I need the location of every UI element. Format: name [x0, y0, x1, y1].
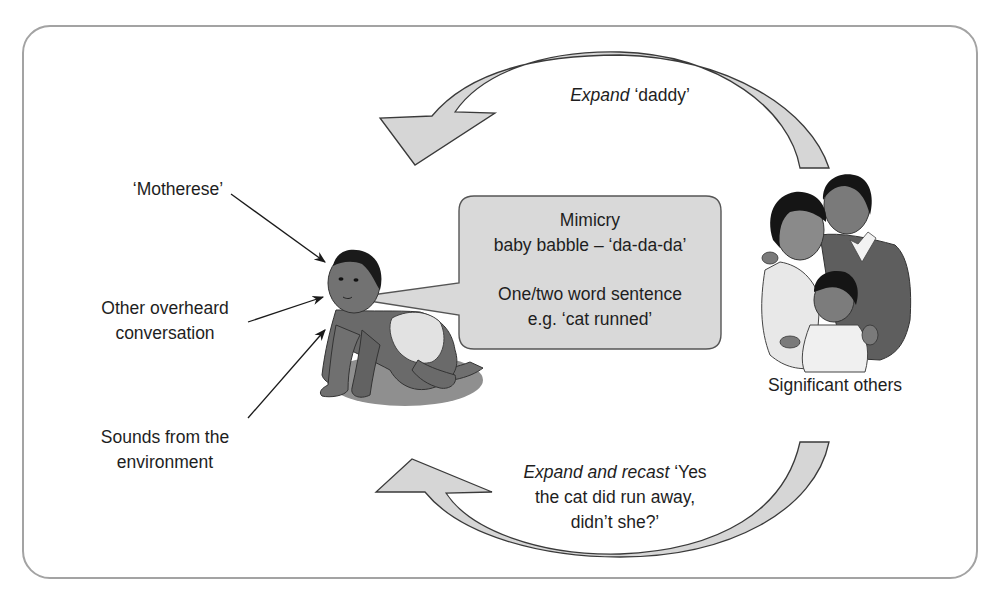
family-group-icon: [762, 174, 911, 372]
overheard-arrow: [248, 297, 323, 322]
bottom-arrow-label: Expand and recast ‘Yes the cat did run a…: [500, 460, 730, 535]
speech-bubble-text: Mimicry baby babble – ‘da-da-da’ One/two…: [459, 208, 721, 332]
environment-arrow: [248, 330, 325, 418]
label-overheard-conversation: Other overheard conversation: [80, 296, 250, 346]
label-motherese: ‘Motherese’: [118, 177, 238, 202]
bottom-arrow-label-italic: Expand and recast: [523, 462, 669, 482]
top-arrow-label-italic: Expand: [570, 85, 629, 105]
motherese-arrow: [231, 194, 325, 262]
top-arrow-label: Expand ‘daddy’: [540, 83, 720, 108]
label-environment-sounds: Sounds from the environment: [80, 425, 250, 475]
label-significant-others: Significant others: [740, 373, 930, 398]
top-curved-arrow: [380, 52, 829, 168]
